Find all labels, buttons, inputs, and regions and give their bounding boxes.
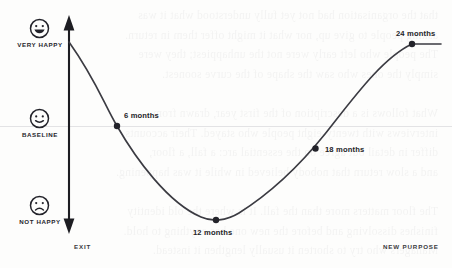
point-label-18-months: 18 months (325, 145, 364, 154)
axis-caption-new-purpose: NEW PURPOSE (383, 243, 439, 250)
point-label-6-months: 6 months (124, 111, 159, 120)
axis-caption-exit: EXIT (74, 243, 91, 250)
smiley-sad-icon (29, 195, 50, 216)
y-label-not-happy: NOT HAPPY (9, 218, 71, 225)
scanned-page: that the organisation had not yet fully … (0, 0, 452, 268)
data-point-18-months (312, 145, 318, 151)
smiley-very-happy-icon (29, 18, 50, 39)
y-label-very-happy: VERY HAPPY (9, 41, 71, 48)
smiley-neutral-icon (29, 108, 50, 129)
axis-arrow-up-icon (64, 15, 75, 31)
y-label-baseline: BASELINE (9, 131, 71, 138)
point-label-12-months: 12 months (193, 228, 232, 237)
data-point-12-months (213, 217, 219, 223)
data-point-24-months (409, 41, 415, 47)
data-point-6-months (114, 123, 120, 129)
transition-curve-path (69, 42, 441, 220)
point-label-24-months: 24 months (396, 29, 435, 38)
